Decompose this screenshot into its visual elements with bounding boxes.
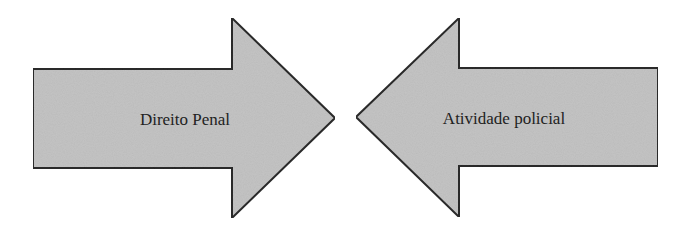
diagram-canvas: Direito Penal Atividade policial xyxy=(0,0,683,242)
arrow-right-label: Direito Penal xyxy=(140,110,230,129)
arrows-diagram: Direito Penal Atividade policial xyxy=(0,0,683,242)
arrow-left: Atividade policial xyxy=(356,18,658,217)
arrow-right: Direito Penal xyxy=(33,18,335,218)
arrow-left-label: Atividade policial xyxy=(443,109,566,128)
